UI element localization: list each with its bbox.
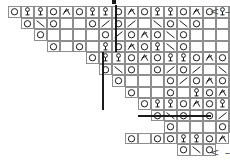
chart-cell-r1-c12	[151, 6, 164, 18]
chart-cell-r2-c3	[47, 18, 60, 30]
chart-cell-r2-c7	[99, 18, 112, 30]
chart-cell-r6-c11	[229, 64, 230, 76]
chart-cell-r5-c8	[177, 52, 190, 64]
chart-cell-r4-c11	[177, 41, 190, 53]
chart-cell-r7-c9	[216, 75, 229, 87]
chart-cell-r8-c9	[229, 87, 230, 99]
chart-cell-r7-c6	[177, 75, 190, 87]
repeat-top-tick-marker	[112, 0, 116, 4]
chart-cell-r3-c15	[216, 29, 229, 41]
chart-cell-r4-c7	[125, 41, 138, 53]
chart-cell-r4-c6	[112, 41, 125, 53]
chart-cell-r5-c11	[216, 52, 229, 64]
marker-bottom: < –	[210, 147, 230, 158]
chart-cell-r1-c5	[60, 6, 73, 18]
chart-cell-r2-c13	[177, 18, 190, 30]
chart-cell-r8-c6	[190, 87, 203, 99]
chart-cell-r3-c5	[86, 29, 99, 41]
chart-cell-r6-c7	[177, 64, 190, 76]
chart-cell-r3-c6	[99, 29, 112, 41]
chart-cell-r12-c1	[125, 133, 138, 145]
chart-cell-r3-c12	[177, 29, 190, 41]
chart-cell-r8-c5	[177, 87, 190, 99]
chart-cell-r13-c2	[177, 133, 190, 145]
chart-cell-r9-c4	[177, 98, 190, 110]
chart-cell-r10-c6	[216, 110, 229, 122]
chart-cell-r13-c5	[216, 133, 229, 145]
chart-cell-r11-c5	[216, 121, 229, 133]
chart-cell-r5-c12	[229, 52, 230, 64]
chart-cell-r12-c2	[138, 133, 151, 145]
chart-cell-r11-c1	[164, 121, 177, 133]
chart-cell-r7-c1	[112, 75, 125, 87]
chart-cell-r1-c15	[190, 6, 203, 18]
chart-cell-r14-c2	[190, 144, 203, 156]
chart-cell-r1-c7	[86, 6, 99, 18]
chart-cell-r4-c1	[47, 41, 60, 53]
chart-cell-r11-c4	[203, 121, 216, 133]
chart-cell-r13-c3	[190, 133, 203, 145]
chart-cell-r2-c4	[60, 18, 73, 30]
chart-cell-r4-c8	[138, 41, 151, 53]
chart-cell-r3-c1	[34, 29, 47, 41]
chart-cell-r7-c3	[138, 75, 151, 87]
chart-cell-r9-c2	[151, 98, 164, 110]
chart-cell-r2-c15	[203, 18, 216, 30]
chart-cell-r5-c4	[125, 52, 138, 64]
repeat-boundary-line-2	[102, 52, 104, 98]
chart-cell-r3-c14	[203, 29, 216, 41]
chart-cell-r8-c4	[164, 87, 177, 99]
chart-cell-r2-c1	[21, 18, 34, 30]
chart-cell-r12-c3	[151, 133, 164, 145]
chart-cell-r7-c5	[164, 75, 177, 87]
chart-cell-r2-c10	[138, 18, 151, 30]
chart-cell-r2-c5	[73, 18, 86, 30]
chart-cell-r6-c6	[164, 64, 177, 76]
chart-cell-r11-c2	[177, 121, 190, 133]
chart-cell-r2-c16	[216, 18, 229, 30]
chart-cell-r8-c8	[216, 87, 229, 99]
chart-cell-r2-c17	[229, 18, 230, 30]
chart-cell-r4-c12	[190, 41, 203, 53]
chart-cell-r14-c1	[177, 144, 190, 156]
chart-cell-r2-c11	[151, 18, 164, 30]
chart-cell-r6-c8	[190, 64, 203, 76]
chart-cell-r7-c4	[151, 75, 164, 87]
chart-cell-r3-c7	[112, 29, 125, 41]
chart-cell-r4-c10	[164, 41, 177, 53]
chart-cell-r6-c9	[203, 64, 216, 76]
repeat-boundary-line-1	[115, 5, 117, 52]
chart-cell-r2-c6	[86, 18, 99, 30]
repeat-boundary-line-3	[102, 98, 104, 110]
chart-cell-r9-c8	[229, 98, 230, 110]
chart-cell-r8-c2	[138, 87, 151, 99]
chart-cell-r4-c3	[73, 41, 86, 53]
chart-cell-r4-c14	[216, 41, 229, 53]
chart-cell-r6-c10	[216, 64, 229, 76]
chart-cell-r13-c4	[203, 133, 216, 145]
chart-cell-r6-c5	[151, 64, 164, 76]
chart-cell-r2-c2	[34, 18, 47, 30]
chart-cell-r13-c1	[164, 133, 177, 145]
chart-cell-r8-c1	[125, 87, 138, 99]
chart-cell-r11-c3	[190, 121, 203, 133]
chart-cell-r1-c6	[73, 6, 86, 18]
chart-cell-r2-c9	[125, 18, 138, 30]
repeat-boundary-line-4	[138, 115, 211, 117]
chart-cell-r5-c5	[138, 52, 151, 64]
chart-cell-r9-c7	[216, 98, 229, 110]
chart-cell-r5-c6	[151, 52, 164, 64]
chart-cell-r7-c7	[190, 75, 203, 87]
chart-cell-r2-c12	[164, 18, 177, 30]
chart-cell-r4-c5	[99, 41, 112, 53]
chart-cell-r1-c14	[177, 6, 190, 18]
knitting-chart: < –< –	[0, 0, 230, 161]
chart-cell-r4-c13	[203, 41, 216, 53]
chart-cell-r7-c8	[203, 75, 216, 87]
chart-cell-r4-c2	[60, 41, 73, 53]
chart-cell-r1-c8	[99, 6, 112, 18]
chart-cell-r1-c13	[164, 6, 177, 18]
chart-cell-r1-c9	[112, 6, 125, 18]
chart-cell-r1-c10	[125, 6, 138, 18]
chart-cell-r5-c1	[86, 52, 99, 64]
